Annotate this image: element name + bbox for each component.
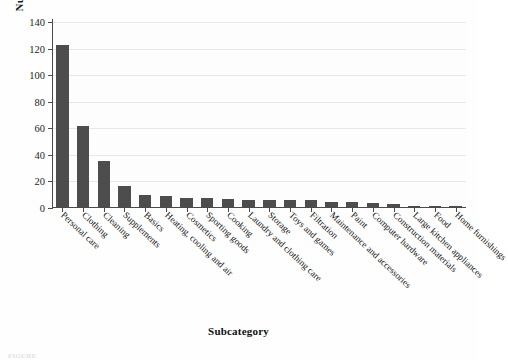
gridline	[52, 49, 466, 50]
bar	[98, 161, 110, 208]
gridline	[52, 128, 466, 129]
y-tick-label: 40	[35, 149, 46, 160]
gridline	[52, 102, 466, 103]
gridline	[52, 155, 466, 156]
gridline	[52, 75, 466, 76]
y-tick-label: 0	[40, 203, 45, 214]
y-tick-label: 60	[35, 123, 46, 134]
x-axis-title: Subcategory	[0, 325, 477, 337]
plot-area: 020406080100120140	[52, 22, 466, 208]
y-tick-label: 100	[29, 70, 45, 81]
y-axis-title: Number of products	[10, 0, 28, 48]
bar	[284, 200, 296, 207]
x-axis-tick-labels: Personal careClothingCleaningSupplements…	[52, 210, 466, 310]
y-tick-label: 80	[35, 96, 46, 107]
gridline	[52, 22, 466, 23]
bar	[222, 199, 234, 207]
bar	[201, 198, 213, 207]
bar	[77, 126, 89, 207]
bar	[263, 200, 275, 207]
y-tick-label: 120	[29, 43, 45, 54]
y-tick-label: 140	[29, 17, 45, 28]
y-axis-line	[52, 19, 53, 209]
bar	[56, 45, 68, 207]
bar	[118, 186, 130, 207]
bar	[139, 195, 151, 207]
y-tick-label: 20	[35, 176, 46, 187]
bar	[160, 196, 172, 207]
bar	[305, 200, 317, 207]
bar	[242, 200, 254, 207]
x-axis-line	[52, 207, 466, 208]
plot-background	[52, 22, 466, 208]
gridline	[52, 181, 466, 182]
bar	[180, 198, 192, 207]
figure-caption: FIGURE	[8, 352, 36, 360]
